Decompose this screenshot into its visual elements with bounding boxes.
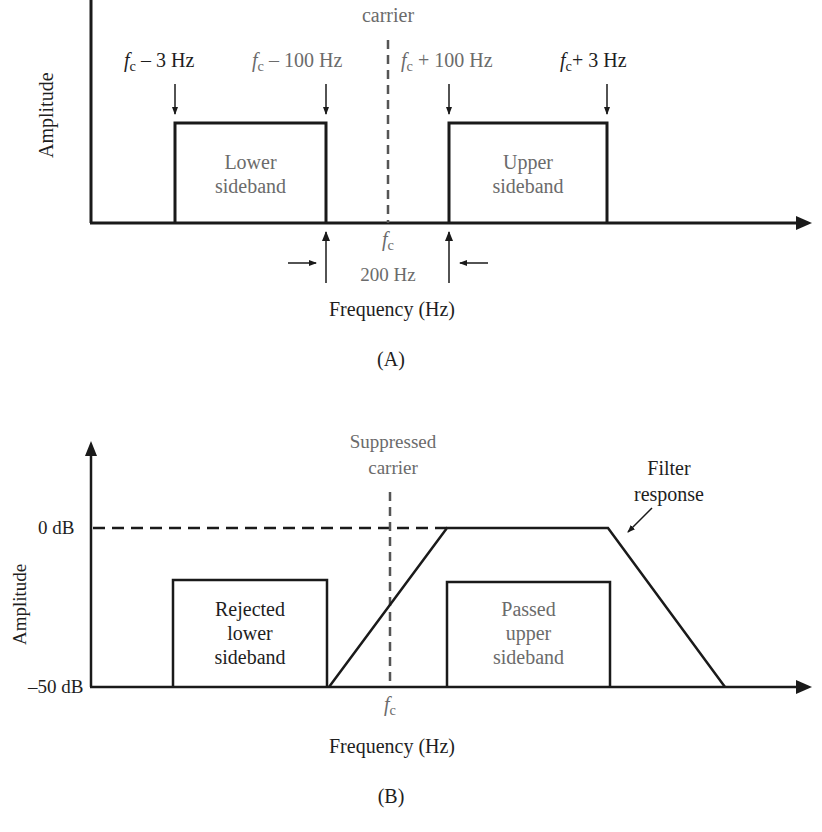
marker-text: + 3 Hz — [572, 49, 627, 71]
panel-a-graphics — [90, 0, 812, 283]
y-tick-0db: 0 dB — [38, 518, 74, 537]
panel-b-fc-label: fc — [384, 694, 396, 718]
upper-sideband-line2: sideband — [449, 174, 607, 198]
passed-line1: Passed — [447, 597, 610, 621]
marker-text: – 100 Hz — [264, 49, 342, 71]
y-tick-minus-50db: –50 dB — [28, 677, 83, 696]
suppressed-carrier-label-line2: carrier — [368, 458, 418, 477]
panel-a-x-axis-label: Frequency (Hz) — [329, 299, 455, 319]
suppressed-carrier-label-line1: Suppressed — [350, 432, 437, 451]
upper-sideband-line1: Upper — [449, 150, 607, 174]
filter-response-label-line2: response — [634, 484, 704, 504]
lower-sideband-line1: Lower — [175, 150, 326, 174]
panel-a-caption: (A) — [377, 349, 405, 369]
panel-b-x-axis-arrow-icon — [796, 680, 812, 694]
filter-pointer-arrow-icon — [628, 508, 652, 532]
panel-a-fc-label: fc — [382, 229, 394, 253]
filter-response-label-line1: Filter — [647, 458, 690, 478]
rejected-lower-sideband-label: Rejected lower sideband — [173, 597, 327, 669]
diagram-graphics — [0, 0, 822, 832]
panel-b-y-axis-label: Amplitude — [10, 564, 29, 645]
lower-sideband-label: Lower sideband — [175, 150, 326, 198]
panel-a-y-axis-label: Amplitude — [36, 72, 56, 158]
marker-text: – 3 Hz — [136, 49, 194, 71]
fc-subscript: c — [390, 702, 396, 718]
marker-label-fc-minus-3hz: fc – 3 Hz — [124, 50, 194, 74]
lower-sideband-line2: sideband — [175, 174, 326, 198]
panel-b-y-axis-arrow-icon — [85, 441, 97, 456]
gap-label: 200 Hz — [360, 265, 415, 284]
fc-subscript: c — [388, 237, 394, 253]
marker-label-fc-minus-100hz: fc – 100 Hz — [252, 50, 342, 74]
rejected-line1: Rejected — [173, 597, 327, 621]
carrier-label: carrier — [362, 5, 414, 25]
upper-sideband-label: Upper sideband — [449, 150, 607, 198]
rejected-line3: sideband — [173, 645, 327, 669]
panel-a-x-axis-arrow-icon — [796, 216, 812, 230]
marker-label-fc-plus-100hz: fc + 100 Hz — [401, 50, 493, 74]
marker-label-fc-plus-3hz: fc+ 3 Hz — [560, 50, 627, 74]
passed-line2: upper — [447, 621, 610, 645]
panel-b-x-axis-label: Frequency (Hz) — [329, 736, 455, 756]
passed-upper-sideband-label: Passed upper sideband — [447, 597, 610, 669]
rejected-line2: lower — [173, 621, 327, 645]
marker-text: + 100 Hz — [413, 49, 493, 71]
panel-b-caption: (B) — [378, 786, 405, 806]
passed-line3: sideband — [447, 645, 610, 669]
